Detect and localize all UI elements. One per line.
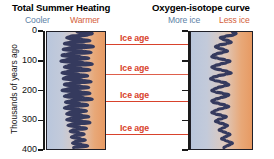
y-tick-300 <box>38 120 43 122</box>
y-tick-label-100: 100 <box>3 55 37 65</box>
climate-figure: Total Summer Heating Oxygen-isotope curv… <box>0 0 274 159</box>
right-tick-200 <box>182 90 188 92</box>
panel-title-right: Oxygen-isotope curve <box>152 2 250 13</box>
right-tick-400 <box>182 149 188 151</box>
ice-age-label-3: Ice age <box>120 90 149 100</box>
axis-label-warmer: Warmer <box>70 15 100 25</box>
y-tick-label-400: 400 <box>3 144 37 154</box>
y-tick-100 <box>38 60 43 62</box>
y-tick-label-300: 300 <box>3 114 37 124</box>
right-tick-100 <box>182 60 188 62</box>
curve-total-summer-heating <box>47 32 105 149</box>
ice-age-label-4: Ice age <box>120 123 149 133</box>
axis-label-less-ice: Less ice <box>219 15 250 25</box>
y-tick-0 <box>38 30 43 32</box>
axis-label-more-ice: More ice <box>168 15 200 25</box>
y-axis-tick-labels: 0100200300400 <box>0 0 37 159</box>
y-tick-label-200: 200 <box>3 85 37 95</box>
right-tick-0 <box>182 30 188 32</box>
y-tick-label-0: 0 <box>3 25 37 35</box>
y-tick-400 <box>38 149 43 151</box>
y-axis-line <box>43 31 45 150</box>
curve-path <box>211 32 237 148</box>
panel-oxygen-isotope-curve <box>190 31 253 150</box>
curve-path <box>61 32 93 148</box>
right-tick-300 <box>182 120 188 122</box>
ice-age-label-2: Ice age <box>120 63 149 73</box>
panel-total-summer-heating <box>46 31 106 150</box>
ice-age-label-1: Ice age <box>120 33 149 43</box>
curve-oxygen-isotope <box>191 32 252 149</box>
y-tick-200 <box>38 90 43 92</box>
